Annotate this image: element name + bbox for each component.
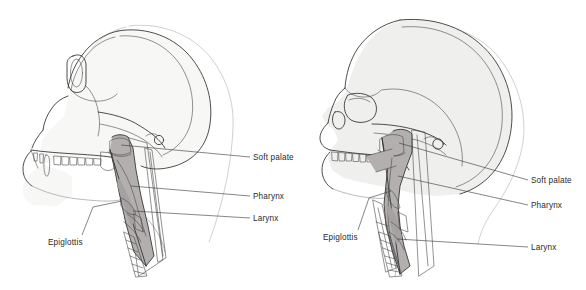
human-label-soft-palate: Soft palate (531, 176, 572, 185)
chimp-label-pharynx: Pharynx (253, 192, 284, 201)
leader-larynx-chimp (133, 211, 250, 218)
anatomy-figure: Soft palate Pharynx Larynx Epiglottis (0, 0, 586, 290)
leader-epiglottis-chimp (82, 201, 122, 235)
human-label-pharynx: Pharynx (531, 201, 562, 210)
chimp-label-soft-palate: Soft palate (253, 153, 294, 162)
human-panel: Soft palate Pharynx Larynx Epiglottis (320, 19, 572, 277)
chimp-label-epiglottis: Epiglottis (48, 238, 83, 247)
leader-larynx-human (397, 239, 528, 247)
human-label-larynx: Larynx (531, 243, 556, 252)
human-label-epiglottis: Epiglottis (323, 233, 358, 242)
chimp-label-larynx: Larynx (253, 214, 278, 223)
leader-pharynx-chimp (131, 186, 250, 196)
chimpanzee-panel: Soft palate Pharynx Larynx Epiglottis (23, 25, 294, 277)
